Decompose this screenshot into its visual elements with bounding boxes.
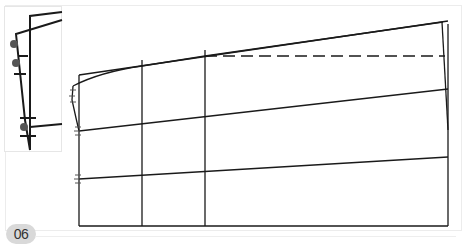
inset-detail-drawing — [10, 12, 62, 150]
main-pattern-drawing — [72, 21, 448, 226]
pattern-diagram — [0, 0, 467, 244]
step-number-badge: 06 — [6, 224, 36, 244]
divider-line — [36, 236, 456, 237]
